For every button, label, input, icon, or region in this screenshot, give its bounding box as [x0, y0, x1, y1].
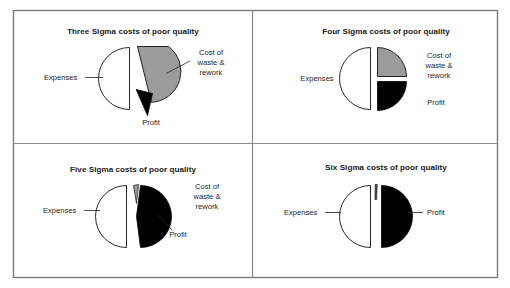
panel-title-three-sigma: Three Sigma costs of poor quality — [67, 27, 199, 36]
label-expenses-four-sigma: Expenses — [300, 74, 334, 83]
sigma-pie-chart-figure: Three Sigma costs of poor quality Expens… — [0, 0, 510, 288]
label-profit-four-sigma: Profit — [427, 98, 446, 107]
label-cost-line1-three-sigma: Cost of — [199, 48, 224, 57]
label-cost-line2-five-sigma: waste & — [192, 192, 220, 201]
panel-title-four-sigma: Four Sigma costs of poor quality — [322, 27, 450, 36]
label-cost-line3-three-sigma: rework — [200, 68, 223, 77]
label-expenses-three-sigma: Expenses — [44, 73, 78, 82]
label-cost-line1-five-sigma: Cost of — [195, 182, 220, 191]
label-cost-line1-four-sigma: Cost of — [427, 51, 452, 60]
label-profit-five-sigma: Profit — [169, 230, 188, 239]
label-cost-line2-three-sigma: waste & — [196, 58, 224, 67]
label-profit-six-sigma: Profit — [427, 208, 446, 217]
panel-title-six-sigma: Six Sigma costs of poor quality — [325, 163, 447, 172]
label-cost-line2-four-sigma: waste & — [424, 61, 452, 70]
label-expenses-six-sigma: Expenses — [284, 208, 318, 217]
panel-title-five-sigma: Five Sigma costs of poor quality — [70, 165, 196, 174]
slice-cost-of-waste-six-sigma — [375, 185, 377, 200]
label-expenses-five-sigma: Expenses — [43, 206, 77, 215]
figure-canvas: Three Sigma costs of poor quality Expens… — [0, 0, 510, 288]
label-cost-line3-four-sigma: rework — [428, 71, 451, 80]
label-cost-line3-five-sigma: rework — [196, 202, 219, 211]
label-profit-three-sigma: Profit — [142, 118, 161, 127]
